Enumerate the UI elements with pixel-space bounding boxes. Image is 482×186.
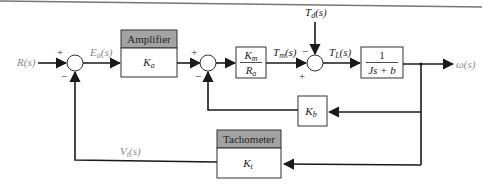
sum3-plus-sign: + bbox=[299, 70, 305, 82]
motor-torque-label: Tm(s) bbox=[273, 46, 297, 60]
summing-junction-3 bbox=[307, 55, 323, 71]
plant-block: 1 Js + b bbox=[361, 47, 403, 78]
sum1-minus-sign: − bbox=[61, 70, 67, 82]
amplifier-header-label: Amplifier bbox=[127, 33, 171, 45]
tach-voltage-label: Vt(s) bbox=[120, 145, 141, 159]
summing-junction-1 bbox=[67, 55, 83, 71]
disturbance-label: Td(s) bbox=[305, 6, 327, 20]
summing-junction-2 bbox=[200, 55, 216, 71]
tachometer-block: Tachometer Kt bbox=[217, 130, 281, 178]
sum2-plus-sign: + bbox=[191, 46, 197, 58]
motor-gain-block: Km Ra bbox=[236, 47, 266, 78]
tachometer-header-label: Tachometer bbox=[223, 133, 275, 145]
wire-tach-out bbox=[75, 72, 217, 162]
sum1-plus-sign: + bbox=[57, 46, 63, 58]
plant-denominator: Js + b bbox=[368, 64, 396, 76]
block-diagram: R(s) + − Ea(s) Amplifier Ka + − Km Ra Tm… bbox=[0, 0, 482, 186]
load-torque-label: TL(s) bbox=[329, 46, 352, 60]
amplifier-block: Amplifier Ka bbox=[121, 30, 177, 77]
wire-tach-in bbox=[284, 164, 421, 165]
sum3-minus-sign: − bbox=[302, 45, 308, 57]
top-rule bbox=[0, 1, 482, 7]
input-label-r: R(s) bbox=[16, 56, 36, 69]
plant-numerator: 1 bbox=[379, 49, 385, 61]
error-label: Ea(s) bbox=[89, 46, 113, 60]
back-emf-block: Kb bbox=[298, 96, 327, 126]
output-label: ω(s) bbox=[456, 58, 476, 71]
sum2-minus-sign: − bbox=[195, 70, 201, 82]
